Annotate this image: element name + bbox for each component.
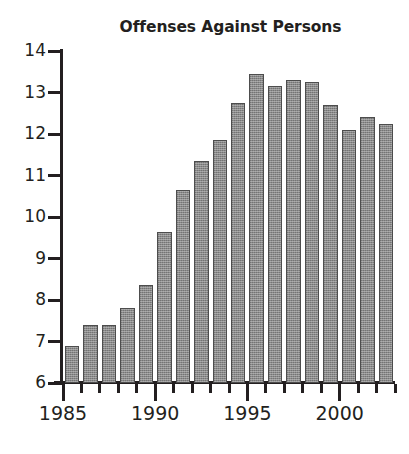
y-axis-tick bbox=[48, 340, 62, 343]
bar bbox=[286, 80, 300, 383]
x-axis-minor-tick bbox=[375, 384, 378, 393]
bar bbox=[139, 285, 153, 383]
y-axis-tick-label: 6 bbox=[16, 374, 46, 391]
chart-title: Offenses Against Persons bbox=[0, 18, 409, 36]
x-axis-tick-label: 2000 bbox=[305, 404, 375, 423]
y-axis-tick bbox=[48, 174, 62, 177]
x-axis-minor-tick bbox=[228, 384, 231, 393]
bar bbox=[213, 140, 227, 383]
bar bbox=[323, 105, 337, 383]
x-axis-minor-tick bbox=[80, 384, 83, 393]
x-axis-minor-tick bbox=[117, 384, 120, 393]
bar bbox=[360, 117, 374, 383]
bar bbox=[249, 74, 263, 383]
y-axis-tick-label: 11 bbox=[16, 167, 46, 184]
x-axis-minor-tick bbox=[172, 384, 175, 393]
y-axis-tick-label: 7 bbox=[16, 333, 46, 350]
bar bbox=[194, 161, 208, 383]
x-axis-major-tick bbox=[62, 384, 65, 401]
x-axis-minor-tick bbox=[191, 384, 194, 393]
x-axis-minor-tick bbox=[320, 384, 323, 393]
y-axis-tick bbox=[48, 91, 62, 94]
x-axis-tick-label: 1990 bbox=[120, 404, 190, 423]
bar bbox=[120, 308, 134, 383]
x-axis-major-tick bbox=[154, 384, 157, 401]
y-axis-tick-label: 8 bbox=[16, 291, 46, 308]
y-axis-tick-label: 14 bbox=[16, 42, 46, 59]
y-axis-tick-label: 13 bbox=[16, 84, 46, 101]
bar bbox=[176, 190, 190, 383]
y-axis-tick-label: 12 bbox=[16, 125, 46, 142]
y-axis-tick-label: 10 bbox=[16, 208, 46, 225]
bar bbox=[65, 346, 79, 383]
bar bbox=[305, 82, 319, 383]
x-axis-minor-tick bbox=[357, 384, 360, 393]
bar bbox=[102, 325, 116, 383]
y-axis-tick bbox=[48, 382, 62, 385]
x-axis-minor-tick bbox=[135, 384, 138, 393]
x-axis-minor-tick bbox=[264, 384, 267, 393]
x-axis-minor-tick bbox=[301, 384, 304, 393]
y-axis-tick bbox=[48, 257, 62, 260]
y-axis-tick bbox=[48, 50, 62, 53]
y-axis-tick-label: 9 bbox=[16, 250, 46, 267]
bar bbox=[157, 232, 171, 383]
bar-chart: Offenses Against Persons 14131211109876 … bbox=[0, 0, 409, 454]
y-axis-tick bbox=[48, 299, 62, 302]
plot-area bbox=[63, 51, 395, 383]
x-axis-minor-tick bbox=[394, 384, 397, 393]
x-axis-major-tick bbox=[338, 384, 341, 401]
y-axis-labels: 14131211109876 bbox=[8, 0, 46, 454]
x-axis-minor-tick bbox=[283, 384, 286, 393]
bar bbox=[231, 103, 245, 383]
bar bbox=[379, 124, 393, 383]
x-axis-tick-label: 1995 bbox=[212, 404, 282, 423]
x-axis-major-tick bbox=[246, 384, 249, 401]
x-axis-tick-label: 1985 bbox=[28, 404, 98, 423]
x-axis-minor-tick bbox=[98, 384, 101, 393]
bar bbox=[342, 130, 356, 383]
y-axis-tick bbox=[48, 216, 62, 219]
bar bbox=[268, 86, 282, 383]
x-axis-minor-tick bbox=[209, 384, 212, 393]
bar bbox=[83, 325, 97, 383]
y-axis-tick bbox=[48, 133, 62, 136]
